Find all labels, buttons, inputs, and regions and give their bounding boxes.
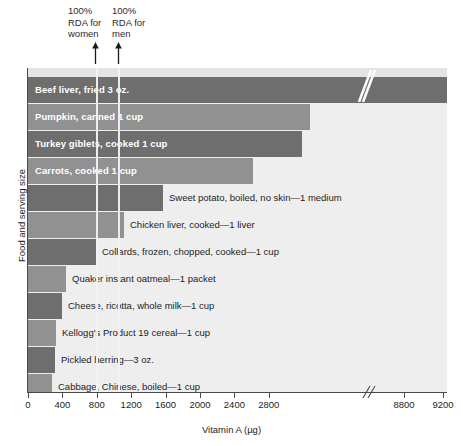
bar-label-8: Cheese, ricotta, whole milk—1 cup [68,293,214,319]
x-tick-label-8800: 8800 [384,399,424,410]
rda-reference-line-men [118,68,120,392]
x-tick-1200 [131,393,132,398]
annotation-rda-women: 100% RDA for women [68,5,116,40]
rda-reference-line-women [96,68,98,392]
arrow-up-icon-women [91,42,100,64]
bar-6 [28,239,96,265]
x-tick-2800 [269,393,270,398]
x-tick-2400 [234,393,235,398]
axis-break-mark-bar [355,70,377,102]
bar-label-7: Quaker instant oatmeal—1 packet [72,266,216,292]
annotation-rda-men: 100% RDA for men [112,5,160,40]
bar-9 [28,320,56,346]
arrow-up-icon-men [114,42,123,64]
bar-8 [28,293,62,319]
bar-5 [28,212,124,238]
bar-label-2: Turkey giblets, cooked 1 cup [35,131,168,157]
x-tick-0 [28,393,29,398]
bar-label-5: Chicken liver, cooked—1 liver [130,212,255,238]
x-tick-9200 [443,393,444,398]
bar-label-4: Sweet potato, boiled, no skin—1 medium [169,185,342,211]
x-axis-line [27,392,447,393]
bar-11 [28,374,52,392]
x-tick-8800 [404,393,405,398]
bar-10 [28,347,55,373]
x-tick-400 [62,393,63,398]
vitamin-a-bar-chart: 100% RDA for women 100% RDA for men Beef… [0,0,463,446]
bar-label-1: Pumpkin, canned 1 cup [35,104,143,130]
y-axis-line [27,68,28,393]
x-tick-800 [97,393,98,398]
bar-7 [28,266,66,292]
x-tick-1600 [166,393,167,398]
x-tick-label-9200: 9200 [423,399,463,410]
bar-label-9: Kellogg's Product 19 cereal—1 cup [62,320,210,346]
plot-top-strip [28,68,447,77]
axis-break-mark-axis [357,385,379,399]
x-tick-2000 [200,393,201,398]
x-tick-label-2800: 2800 [249,399,289,410]
bar-label-10: Pickled herring—3 oz. [61,347,154,373]
y-axis-label: Food and serving size [16,141,27,291]
x-axis-label: Vitamin A (µg) [0,424,463,435]
bar-label-0: Beef liver, fried 3 oz. [35,77,129,103]
bar-label-11: Cabbage, Chinese, boiled—1 cup [58,374,200,392]
bar-label-6: Collards, frozen, chopped, cooked—1 cup [102,239,279,265]
plot-area: Beef liver, fried 3 oz.Pumpkin, canned 1… [28,68,447,392]
bar-label-3: Carrots, cooked 1 cup [35,158,137,184]
